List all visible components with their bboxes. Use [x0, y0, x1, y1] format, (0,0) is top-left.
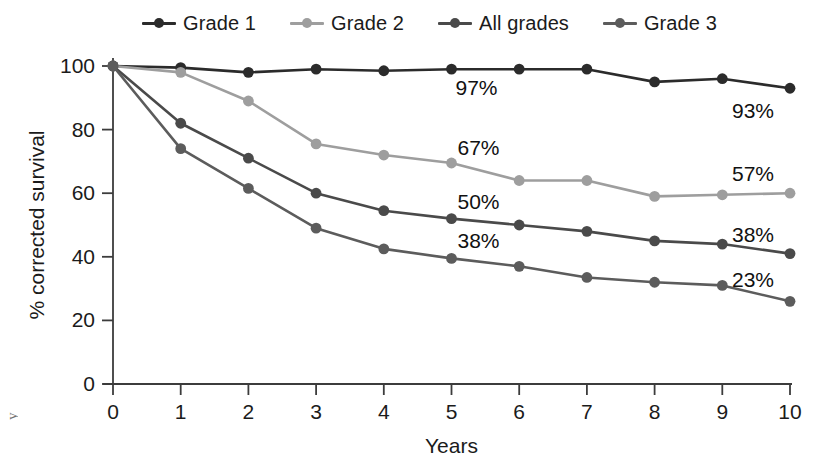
data-point — [717, 73, 728, 84]
data-point — [649, 191, 660, 202]
data-point — [582, 64, 593, 75]
survival-chart-figure: Grade 1 Grade 2 All grades Grade 3 — [0, 0, 829, 460]
data-point — [582, 226, 593, 237]
data-point — [243, 67, 254, 78]
data-point — [311, 223, 322, 234]
data-point — [378, 205, 389, 216]
data-point — [582, 272, 593, 283]
data-point — [649, 277, 660, 288]
data-point — [649, 77, 660, 88]
data-point — [175, 118, 186, 129]
page-edge-fragment: y — [2, 300, 18, 420]
data-point — [717, 189, 728, 200]
data-point — [446, 253, 457, 264]
data-point — [243, 153, 254, 164]
y-tick-label: 0 — [83, 372, 95, 395]
x-tick-label: 4 — [378, 400, 390, 423]
x-tick-label: 2 — [243, 400, 255, 423]
x-tick-label: 9 — [716, 400, 728, 423]
data-point — [785, 296, 796, 307]
data-point — [649, 236, 660, 247]
y-tick-label: 100 — [60, 54, 95, 77]
data-point — [446, 64, 457, 75]
y-tick-label: 20 — [72, 308, 95, 331]
axis-text-layer: 020406080100012345678910Years% corrected… — [25, 54, 802, 457]
series-line-3 — [113, 66, 790, 301]
point-value-label: 93% — [732, 99, 774, 122]
data-point — [785, 248, 796, 259]
point-value-label: 57% — [732, 162, 774, 185]
data-point — [785, 188, 796, 199]
series-line-1 — [113, 66, 790, 196]
series-layer — [108, 61, 796, 307]
data-point — [175, 67, 186, 78]
point-value-label: 50% — [458, 190, 500, 213]
x-tick-label: 0 — [107, 400, 119, 423]
x-tick-label: 6 — [513, 400, 525, 423]
data-point — [378, 150, 389, 161]
y-tick-label: 60 — [72, 181, 95, 204]
x-tick-label: 5 — [446, 400, 458, 423]
data-point — [514, 64, 525, 75]
data-point — [311, 64, 322, 75]
data-point — [311, 139, 322, 150]
data-point — [243, 183, 254, 194]
x-tick-label: 7 — [581, 400, 593, 423]
point-value-label: 38% — [458, 229, 500, 252]
data-point — [514, 175, 525, 186]
data-point — [785, 83, 796, 94]
data-point — [243, 96, 254, 107]
y-tick-label: 40 — [72, 245, 95, 268]
data-point — [446, 213, 457, 224]
x-tick-label: 1 — [175, 400, 187, 423]
data-point — [717, 239, 728, 250]
data-point — [378, 65, 389, 76]
y-tick-label: 80 — [72, 118, 95, 141]
data-point — [514, 220, 525, 231]
data-point — [378, 243, 389, 254]
x-tick-label: 8 — [649, 400, 661, 423]
data-point — [717, 280, 728, 291]
x-tick-label: 3 — [310, 400, 322, 423]
point-value-label: 97% — [456, 76, 498, 99]
point-value-label: 67% — [458, 136, 500, 159]
plot-svg: 97%93%67%57%50%38%38%23% 020406080100012… — [0, 0, 829, 460]
x-tick-label: 10 — [778, 400, 801, 423]
plot-area: 97%93%67%57%50%38%38%23% 020406080100012… — [0, 0, 829, 460]
data-point — [175, 143, 186, 154]
annotation-layer: 97%93%67%57%50%38%38%23% — [456, 76, 775, 291]
data-point — [108, 61, 119, 72]
axis-layer — [102, 58, 792, 395]
y-axis-title: % corrected survival — [25, 130, 48, 319]
data-point — [514, 261, 525, 272]
data-point — [582, 175, 593, 186]
data-point — [311, 188, 322, 199]
point-value-label: 38% — [732, 223, 774, 246]
point-value-label: 23% — [732, 268, 774, 291]
x-axis-title: Years — [425, 434, 478, 457]
data-point — [446, 158, 457, 169]
